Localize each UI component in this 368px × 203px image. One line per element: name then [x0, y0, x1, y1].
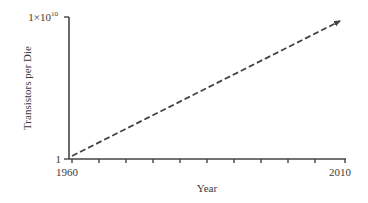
y-axis-title: Transistors per Die [21, 46, 33, 130]
x-axis-title: Year [197, 182, 218, 194]
x-tick-label-min: 1960 [56, 166, 79, 178]
x-tick-label-max: 2010 [329, 166, 352, 178]
trend-line [72, 21, 340, 156]
y-tick-label-max: 1×1010 [28, 10, 58, 23]
chart: 1 1×1010 1960 2010 Year Transistors per … [0, 0, 368, 203]
y-tick-label-min: 1 [56, 153, 62, 165]
